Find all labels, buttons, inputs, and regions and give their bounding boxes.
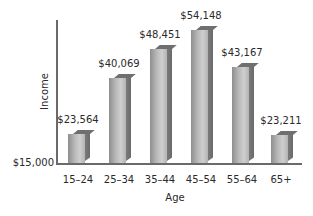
bar-value-label: $23,211 (251, 115, 311, 126)
income-by-age-chart: Income $15,000 $23,56415–24$40,06925–34$… (0, 0, 313, 216)
bar-side-face (126, 74, 131, 161)
bar-front-face (150, 49, 167, 163)
bar-front-face (271, 135, 288, 163)
x-axis-category-label: 55–64 (220, 174, 264, 185)
x-axis-line (56, 163, 302, 165)
x-axis-category-label: 15–24 (56, 174, 100, 185)
bar-5 (271, 131, 295, 163)
bar-top-face (237, 63, 259, 67)
x-axis-title: Age (155, 192, 195, 203)
bar-front-face (109, 78, 126, 163)
bar-0 (68, 130, 92, 163)
bar-top-face (155, 45, 177, 49)
cut-off-caption-text (10, 210, 300, 216)
y-axis-title: Income (39, 70, 50, 114)
bar-value-label: $54,148 (171, 10, 231, 21)
bar-front-face (232, 67, 249, 163)
bar-4 (232, 63, 256, 163)
bar-value-label: $43,167 (212, 47, 272, 58)
bar-value-label: $23,564 (48, 114, 108, 125)
bar-top-face (276, 131, 298, 135)
y-axis-line (56, 20, 58, 165)
bar-value-label: $48,451 (130, 29, 190, 40)
bar-top-face (73, 130, 95, 134)
bar-front-face (191, 30, 208, 163)
y-axis-min-label: $15,000 (10, 157, 54, 168)
bar-1 (109, 74, 133, 163)
bar-side-face (85, 130, 90, 161)
x-axis-category-label: 65+ (259, 174, 303, 185)
x-axis-category-label: 35–44 (138, 174, 182, 185)
bar-value-label: $40,069 (89, 58, 149, 69)
bar-front-face (68, 134, 85, 163)
bar-top-face (196, 26, 218, 30)
bar-side-face (167, 45, 172, 161)
x-axis-category-label: 25–34 (97, 174, 141, 185)
bar-side-face (288, 131, 293, 161)
bar-2 (150, 45, 174, 163)
x-axis-category-label: 45–54 (179, 174, 223, 185)
bar-top-face (114, 74, 136, 78)
bar-side-face (249, 63, 254, 161)
